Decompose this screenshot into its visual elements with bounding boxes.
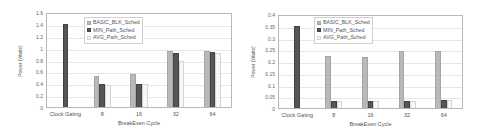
bar-avg-path-sched (179, 61, 185, 108)
x-tick-label: 8 (82, 111, 122, 117)
y-tick-label: 0.6 (23, 69, 43, 75)
y-tick-label: 1.4 (23, 22, 43, 28)
legend-swatch-icon (87, 21, 91, 25)
legend-swatch-icon (317, 21, 321, 25)
y-tick-label: 0 (23, 105, 43, 111)
bar-avg-path-sched (142, 84, 148, 107)
y-tick-label: 0.1 (255, 83, 275, 89)
bar-avg-path-sched (410, 101, 416, 108)
bar-min-path-sched (63, 24, 69, 107)
y-tick-label: 0.05 (255, 94, 275, 100)
x-tick-label: 64 (193, 111, 233, 117)
y-tick-label: 0.4 (23, 81, 43, 87)
legend-swatch-icon (317, 28, 321, 32)
legend-swatch-icon (87, 28, 91, 32)
x-tick-label: 32 (387, 112, 427, 118)
bar-avg-path-sched (373, 101, 379, 108)
bar-avg-path-sched (105, 85, 111, 107)
legend-item: BASIC_BLK_Sched (317, 19, 370, 27)
bar-avg-path-sched (447, 100, 453, 108)
legend: BASIC_BLK_SchedMIN_Path_SchedAVG_Path_Sc… (84, 17, 143, 44)
x-axis-label: BreakEven Cycle (46, 120, 232, 126)
x-tick-label: Clock Gating (277, 112, 317, 118)
legend-swatch-icon (317, 36, 321, 40)
legend: BASIC_BLK_SchedMIN_Path_SchedAVG_Path_Sc… (314, 17, 373, 44)
x-tick-label: 8 (314, 112, 354, 118)
y-tick-label: 0.4 (255, 12, 275, 18)
legend-label: BASIC_BLK_Sched (323, 19, 370, 27)
y-tick-label: 0.35 (255, 24, 275, 30)
legend-item: MIN_Path_Sched (87, 27, 140, 35)
bar-min-path-sched (294, 26, 300, 108)
bar-avg-path-sched (337, 101, 343, 108)
legend-item: MIN_Path_Sched (317, 27, 370, 35)
legend-item: AVG_Path_Sched (317, 34, 370, 42)
y-tick-label: 0.8 (23, 58, 43, 64)
x-tick-label: 16 (119, 111, 159, 117)
x-tick-label: 64 (424, 112, 464, 118)
legend-label: BASIC_BLK_Sched (93, 19, 140, 27)
y-tick-label: 0.25 (255, 47, 275, 53)
y-tick-label: 0.2 (255, 59, 275, 65)
y-tick-label: 1 (23, 46, 43, 52)
bar-avg-path-sched (215, 53, 221, 107)
x-tick-label: 16 (351, 112, 391, 118)
y-tick-label: 1.2 (23, 34, 43, 40)
y-tick-label: 0.15 (255, 71, 275, 77)
legend-item: AVG_Path_Sched (87, 34, 140, 42)
legend-label: MIN_Path_Sched (93, 27, 135, 35)
y-tick-label: 0.2 (23, 93, 43, 99)
x-tick-label: 32 (156, 111, 196, 117)
bar-basic-blk-sched (399, 51, 405, 109)
y-tick-label: 0.3 (255, 36, 275, 42)
legend-swatch-icon (87, 36, 91, 40)
x-axis-label: BreakEven Cycle (278, 121, 463, 127)
legend-item: BASIC_BLK_Sched (87, 19, 140, 27)
legend-label: AVG_Path_Sched (93, 34, 136, 42)
legend-label: AVG_Path_Sched (323, 34, 366, 42)
legend-label: MIN_Path_Sched (323, 27, 365, 35)
power-chart-right: Power (Watts)00.050.10.150.20.250.30.350… (243, 0, 486, 138)
power-chart-left: Power (Watts)00.20.40.60.811.21.41.6Cloc… (0, 0, 243, 138)
x-tick-label: Clock Gating (45, 111, 85, 117)
y-tick-label: 0 (255, 106, 275, 112)
y-tick-label: 1.6 (23, 10, 43, 16)
